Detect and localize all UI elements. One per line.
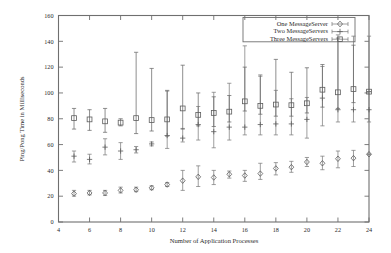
series-2	[71, 35, 371, 164]
x-tick-label: 14	[211, 226, 217, 233]
x-tick-label: 22	[335, 226, 341, 233]
chart-figure: 020406080100120140160 468101214161820222…	[0, 0, 391, 253]
x-tick-label: 6	[88, 226, 91, 233]
y-tick-label: 120	[44, 63, 53, 70]
x-tick-label: 4	[57, 226, 60, 233]
y-tick-label: 140	[44, 38, 53, 45]
data-series-group	[71, 35, 371, 196]
y-axis-ticks: 020406080100120140160	[44, 12, 369, 226]
x-tick-label: 24	[366, 226, 372, 233]
y-tick-label: 60	[47, 141, 53, 148]
plot-canvas: 020406080100120140160 468101214161820222…	[0, 0, 391, 253]
y-tick-label: 100	[44, 89, 53, 96]
legend-label-2: Two MessageServers	[274, 27, 329, 34]
y-tick-label: 0	[50, 218, 53, 225]
y-axis-title: Ping/Pong Time in Milliseconds	[18, 76, 25, 162]
x-axis-title: Number of Application Processes	[170, 237, 259, 244]
x-tick-label: 18	[273, 226, 279, 233]
y-tick-label: 20	[47, 192, 53, 199]
series-1	[72, 150, 372, 196]
series-3	[72, 38, 372, 136]
x-tick-label: 8	[119, 226, 122, 233]
legend-label-3: Three MessageServers	[270, 35, 329, 42]
y-tick-label: 40	[47, 167, 53, 174]
x-tick-label: 20	[304, 226, 310, 233]
x-tick-label: 10	[149, 226, 155, 233]
x-tick-label: 16	[242, 226, 248, 233]
y-tick-label: 160	[44, 12, 53, 19]
y-tick-label: 80	[47, 115, 53, 122]
legend-label-1: One MessageServer	[277, 20, 329, 27]
x-tick-label: 12	[180, 226, 186, 233]
